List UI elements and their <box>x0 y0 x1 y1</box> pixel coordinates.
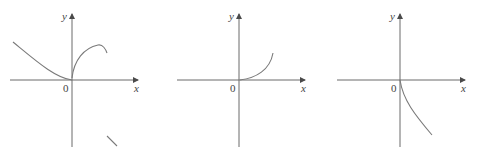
x-axis-label: x <box>133 82 139 94</box>
graph-3: y x 0 <box>337 10 466 147</box>
curve-left-branch <box>13 42 72 80</box>
y-axis-label: y <box>228 10 234 22</box>
graphs-figure: y x 0 y x 0 y x 0 <box>0 0 477 154</box>
x-axis-label: x <box>300 82 306 94</box>
curve-lower-segment <box>107 136 117 146</box>
graph-1: y x 0 <box>10 10 139 147</box>
origin-label: 0 <box>63 82 69 94</box>
origin-label: 0 <box>391 82 397 94</box>
y-axis-label: y <box>389 10 395 22</box>
x-axis-label: x <box>460 82 466 94</box>
origin-label: 0 <box>230 82 236 94</box>
curve <box>400 80 432 135</box>
graph-2: y x 0 <box>177 10 306 147</box>
y-axis-label: y <box>61 10 67 22</box>
curve-right-arc <box>72 45 107 78</box>
curve <box>240 53 273 80</box>
